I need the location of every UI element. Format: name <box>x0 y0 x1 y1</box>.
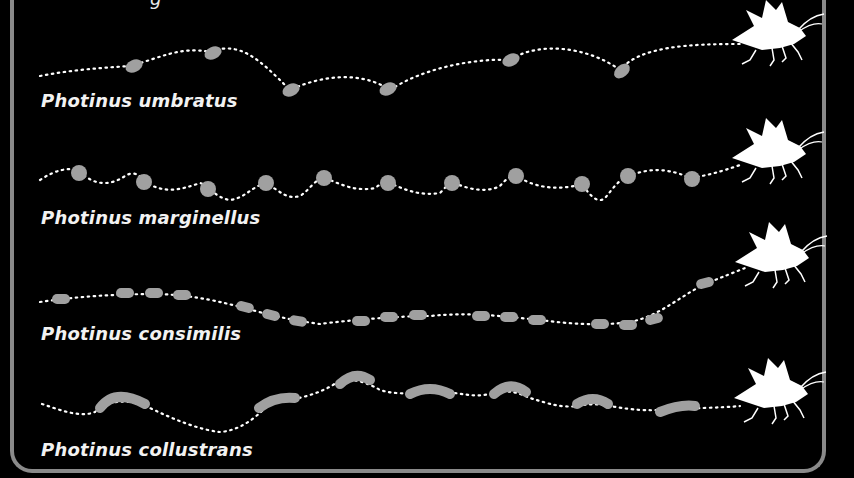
species-label-umbratus: Photinus umbratus <box>41 90 238 111</box>
row-consimilis-path <box>40 222 827 330</box>
row-umbratus-path <box>40 0 824 99</box>
row-marginellus-path <box>40 118 824 200</box>
flash-pattern-diagram <box>0 0 854 478</box>
firefly-silhouette-icon <box>734 358 826 424</box>
species-label-collustrans: Photinus collustrans <box>41 439 253 460</box>
species-label-consimilis: Photinus consimilis <box>41 323 241 344</box>
species-label-marginellus: Photinus marginellus <box>41 207 260 228</box>
row-collustrans-path <box>42 358 826 432</box>
firefly-silhouette-icon <box>732 0 824 66</box>
firefly-silhouette-icon <box>735 222 827 288</box>
firefly-silhouette-icon <box>732 118 824 184</box>
